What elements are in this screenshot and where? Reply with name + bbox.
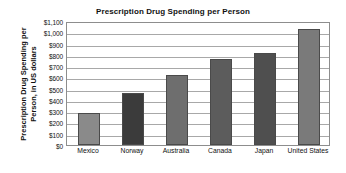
y-axis-tick-label: $900 [49,41,63,48]
y-axis-tick-label: $700 [49,64,63,71]
bar-series [67,23,329,145]
bar [166,75,189,145]
x-axis-tick-labels: MexicoNorwayAustraliaCanadaJapanUnited S… [66,147,330,161]
x-axis-tick-label: United States [288,147,329,154]
x-axis-tick-label: Norway [120,147,143,154]
x-axis-tick-label: Canada [208,147,232,154]
y-axis-tick-label: $100 [49,131,63,138]
y-axis-tick-label: $400 [49,97,63,104]
chart-title: Prescription Drug Spending per Person [0,7,346,16]
bar [210,59,233,145]
x-axis-tick-label: Australia [163,147,189,154]
plot-area [66,22,330,146]
y-axis-tick-label: $200 [49,120,63,127]
bar [78,113,101,145]
y-axis-title-line-1: Prescription Drug Spending per [19,22,29,146]
y-axis-tick-label: $500 [49,86,63,93]
y-axis-tick-label: $1,100 [44,19,63,26]
y-axis-tick-label: $0 [56,143,63,150]
bar [122,93,145,145]
y-axis-tick-labels: $0$100$200$300$400$500$600$700$800$900$1… [38,22,65,146]
bar [298,29,321,145]
bar [254,53,277,145]
x-axis-tick-label: Mexico [77,147,99,154]
y-axis-tick-label: $800 [49,52,63,59]
y-axis-tick-label: $300 [49,109,63,116]
y-axis-tick-label: $600 [49,75,63,82]
chart-container: Prescription Drug Spending per Person Pr… [0,0,346,173]
y-axis-tick-label: $1,000 [44,30,63,37]
x-axis-tick-label: Japan [255,147,274,154]
